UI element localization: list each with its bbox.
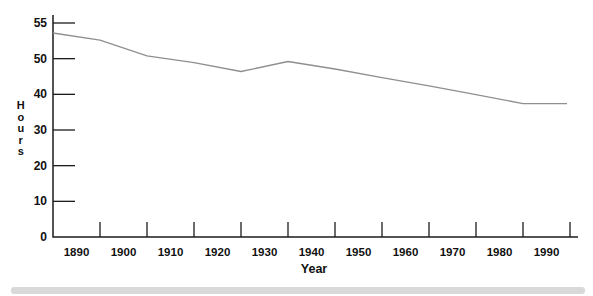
y-tick-label: 50 bbox=[34, 52, 48, 66]
figure-average-weekly-hours-chart: 0102030405055189019001910192019301940195… bbox=[0, 0, 593, 296]
y-tick-label: 0 bbox=[40, 230, 47, 244]
y-tick-label: 40 bbox=[34, 87, 48, 101]
x-tick-label: 1890 bbox=[64, 246, 90, 258]
y-axis-title: H o u r s bbox=[12, 100, 30, 158]
x-tick-label: 1970 bbox=[440, 246, 466, 258]
y-tick-label: 20 bbox=[34, 159, 48, 173]
x-axis-title: Year bbox=[283, 262, 345, 276]
chart-canvas: 0102030405055189019001910192019301940195… bbox=[0, 0, 593, 296]
hours-data-line bbox=[53, 33, 567, 104]
page-divider-bar bbox=[11, 287, 585, 294]
x-tick-label: 1920 bbox=[205, 246, 231, 258]
axes-lines bbox=[53, 15, 578, 237]
x-tick-label: 1910 bbox=[158, 246, 184, 258]
y-tick-label: 55 bbox=[34, 16, 48, 30]
x-tick-label: 1990 bbox=[534, 246, 560, 258]
x-tick-label: 1950 bbox=[346, 246, 372, 258]
x-tick-label: 1900 bbox=[111, 246, 137, 258]
y-tick-label: 10 bbox=[34, 194, 48, 208]
x-tick-label: 1960 bbox=[393, 246, 419, 258]
x-tick-label: 1940 bbox=[299, 246, 325, 258]
x-tick-label: 1980 bbox=[487, 246, 513, 258]
y-tick-label: 30 bbox=[34, 123, 48, 137]
x-tick-label: 1930 bbox=[252, 246, 278, 258]
